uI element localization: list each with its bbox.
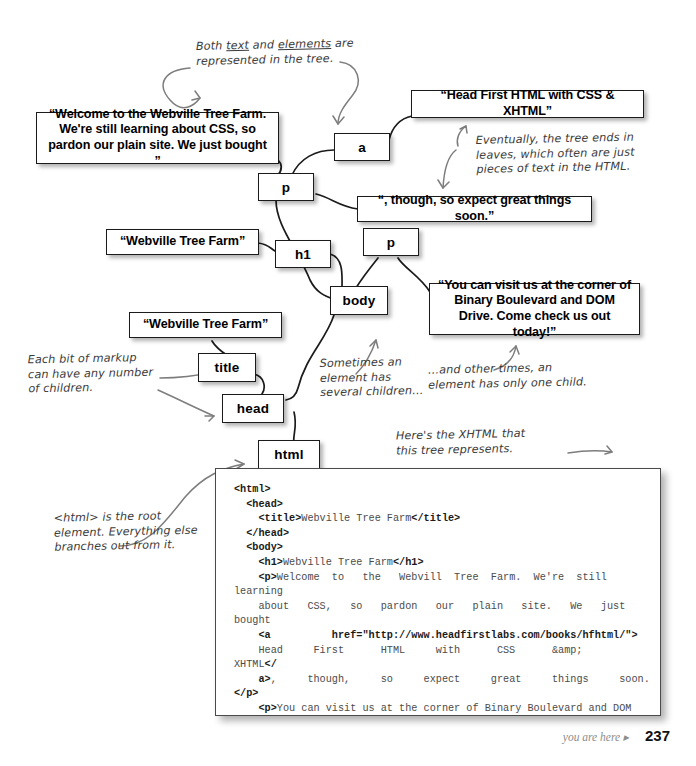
text-node-h1-text: “Webville Tree Farm” xyxy=(106,229,259,255)
tree-node-p-second[interactable]: p xyxy=(363,228,419,256)
tree-node-title[interactable]: title xyxy=(198,353,256,382)
footer-you-are-here-label: you are here xyxy=(563,731,620,743)
tree-node-h1[interactable]: h1 xyxy=(275,240,331,268)
page-number: 237 xyxy=(645,727,670,744)
xhtml-code-listing: <html> <head> <title>Webville Tree Farm<… xyxy=(234,483,650,716)
text-node-though: “, though, so expect great things soon.” xyxy=(357,196,592,222)
text-node-title-text: “Webville Tree Farm” xyxy=(129,312,282,338)
tree-node-head[interactable]: head xyxy=(222,394,284,423)
annotation-other-times-one-child: …and other times, an element has only on… xyxy=(428,360,589,392)
annotation-each-bit-markup: Each bit of markup can have any number o… xyxy=(28,351,159,397)
tree-node-a[interactable]: a xyxy=(334,133,390,161)
annotation-both-text-elements: Both text and elements are represented i… xyxy=(196,36,377,69)
annotation-heres-the-xhtml: Here's the XHTML that this tree represen… xyxy=(396,426,545,458)
page-canvas: Both text and elements are represented i… xyxy=(0,0,696,766)
footer-arrow-icon: ▸ xyxy=(623,731,629,743)
footer-you-are-here: you are here ▸ xyxy=(563,730,629,744)
xhtml-code-panel: <html> <head> <title>Webville Tree Farm<… xyxy=(215,468,661,716)
annotation-sometimes-several-children: Sometimes an element has several childre… xyxy=(320,355,425,401)
text-node-welcome: “Welcome to the Webville Tree Farm. We'r… xyxy=(36,112,279,164)
annotation-html-root-element: <html> is the root element. Everything e… xyxy=(54,508,213,555)
text-node-anchor-text: “Head First HTML with CSS & XHTML” xyxy=(411,90,644,118)
page-footer: you are here ▸ 237 xyxy=(563,727,670,744)
annotation-eventually-leaves: Eventually, the tree ends in leaves, whi… xyxy=(476,130,659,177)
tree-node-html[interactable]: html xyxy=(258,440,320,469)
tree-node-body[interactable]: body xyxy=(330,286,388,315)
tree-node-p-first[interactable]: p xyxy=(258,173,314,201)
text-node-visit: “You can visit us at the corner of Binar… xyxy=(429,283,640,335)
